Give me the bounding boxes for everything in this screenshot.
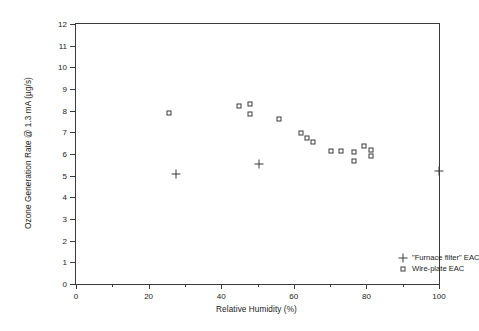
data-point-square xyxy=(166,110,171,115)
x-tick-label: 80 xyxy=(362,292,371,301)
square-icon xyxy=(401,266,406,271)
legend-item: "Furnace filter" EAC xyxy=(398,252,479,263)
y-tick xyxy=(70,89,76,90)
data-point-plus xyxy=(171,169,180,178)
x-tick-minor xyxy=(112,284,113,287)
y-tick xyxy=(70,219,76,220)
chart-legend: "Furnace filter" EACWire-plate EAC xyxy=(398,252,479,274)
plot-area: 0123456789101112 020406080100 "Furnace f… xyxy=(75,23,440,285)
x-tick xyxy=(149,284,150,289)
x-tick-minor xyxy=(185,284,186,287)
data-point-plus xyxy=(435,167,444,176)
data-point-square xyxy=(247,111,252,116)
x-tick-minor xyxy=(403,284,404,287)
x-tick-label: 100 xyxy=(432,292,445,301)
x-tick xyxy=(76,284,77,289)
legend-label: "Furnace filter" EAC xyxy=(412,252,479,263)
data-point-square xyxy=(276,117,281,122)
y-tick-label: 11 xyxy=(59,41,67,50)
x-axis-title: Relative Humidity (%) xyxy=(75,305,438,314)
y-tick-label: 0 xyxy=(63,280,67,289)
legend-marker-square-icon xyxy=(398,263,412,274)
data-point-square xyxy=(328,148,333,153)
y-tick xyxy=(70,132,76,133)
data-point-plus xyxy=(255,159,264,168)
data-point-square xyxy=(352,158,357,163)
y-tick-label: 1 xyxy=(63,258,67,267)
data-point-square xyxy=(368,147,373,152)
x-tick-label: 0 xyxy=(74,292,78,301)
legend-label: Wire-plate EAC xyxy=(412,263,464,274)
data-point-square xyxy=(338,148,343,153)
x-tick xyxy=(294,284,295,289)
y-tick-label: 2 xyxy=(63,236,67,245)
y-tick-label: 8 xyxy=(63,106,67,115)
x-tick-label: 40 xyxy=(217,292,226,301)
plus-icon xyxy=(399,253,408,262)
x-tick-minor xyxy=(330,284,331,287)
y-tick-label: 3 xyxy=(63,215,67,224)
y-tick xyxy=(70,46,76,47)
y-tick-label: 9 xyxy=(63,85,67,94)
data-point-square xyxy=(304,135,309,140)
x-tick xyxy=(221,284,222,289)
y-tick xyxy=(70,154,76,155)
y-tick xyxy=(70,241,76,242)
data-point-square xyxy=(352,149,357,154)
y-tick xyxy=(70,197,76,198)
legend-item: Wire-plate EAC xyxy=(398,263,479,274)
y-tick-label: 12 xyxy=(58,20,67,29)
y-tick-label: 10 xyxy=(58,63,67,72)
y-tick xyxy=(70,262,76,263)
x-tick xyxy=(366,284,367,289)
x-tick-minor xyxy=(258,284,259,287)
data-point-square xyxy=(247,102,252,107)
x-tick-label: 60 xyxy=(289,292,298,301)
y-axis-title: Ozone Generation Rate @ 1.3 mA (µg/s) xyxy=(22,23,36,283)
data-point-square xyxy=(311,140,316,145)
y-tick xyxy=(70,176,76,177)
x-tick-label: 20 xyxy=(144,292,153,301)
y-tick-label: 6 xyxy=(63,150,67,159)
data-point-square xyxy=(299,131,304,136)
y-tick-label: 5 xyxy=(63,171,67,180)
y-tick xyxy=(70,111,76,112)
legend-marker-plus-icon xyxy=(398,252,412,263)
data-point-square xyxy=(361,144,366,149)
data-point-square xyxy=(236,104,241,109)
y-tick-label: 7 xyxy=(63,128,67,137)
y-tick xyxy=(70,24,76,25)
x-tick xyxy=(439,284,440,289)
y-tick-label: 4 xyxy=(63,193,67,202)
y-tick xyxy=(70,67,76,68)
data-point-square xyxy=(368,154,373,159)
